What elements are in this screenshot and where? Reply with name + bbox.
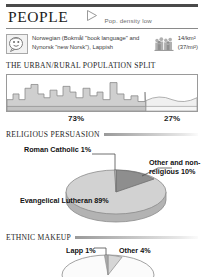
speech-face-icon — [6, 34, 28, 54]
fact-language: Norwegian (Bokmål "book language" and Ny… — [6, 34, 150, 54]
people-page: PEOPLE Pop. density low Norwegian (Bokmå… — [0, 4, 204, 264]
masthead: PEOPLE Pop. density low — [6, 7, 198, 29]
urban-rural-panel — [6, 74, 198, 112]
section-header-religion: RELIGIOUS PERSUASION — [6, 130, 198, 139]
fact-strip: Norwegian (Bokmål "book language" and Ny… — [6, 34, 198, 54]
label-other-nonreligious: Other and non-religious 10% — [149, 158, 205, 176]
urban-rural-legend: 73% 27% — [6, 114, 198, 123]
density-metric: 14/km² — [178, 34, 198, 43]
ethnic-pie-svg — [6, 243, 210, 277]
rural-percent: 27% — [146, 114, 198, 123]
section-rule — [104, 133, 198, 136]
section-header-urban-rural: THE URBAN/RURAL POPULATION SPLIT — [6, 61, 198, 70]
religion-pie-chart: Roman Catholic 1% Other and non-religiou… — [6, 140, 198, 226]
density-text: 14/km² (37/mi²) — [178, 34, 198, 51]
label-lapp: Lapp 1% — [66, 246, 96, 255]
masthead-subtitle: Pop. density low — [104, 17, 151, 24]
section-rule — [75, 236, 198, 239]
urban-percent: 73% — [6, 114, 146, 123]
crowd-people-icon — [154, 34, 174, 54]
page-title: PEOPLE — [6, 7, 68, 27]
section-header-ethnic: ETHNIC MAKEUP — [6, 233, 198, 242]
label-roman-catholic: Roman Catholic 1% — [24, 145, 91, 154]
fact-density: 14/km² (37/mi²) — [152, 34, 198, 54]
triangle-flag-icon — [86, 8, 98, 26]
label-evangelical-lutheran: Evangelical Lutheran 89% — [20, 196, 109, 205]
section-title: THE URBAN/RURAL POPULATION SPLIT — [6, 61, 156, 70]
urban-rural-illustration — [7, 75, 197, 111]
density-imperial: (37/mi²) — [178, 43, 198, 52]
section-title: RELIGIOUS PERSUASION — [6, 130, 100, 139]
ethnic-pie-chart: Lapp 1% Other 4% — [6, 243, 198, 277]
label-other-ethnic: Other 4% — [119, 246, 151, 255]
language-text: Norwegian (Bokmål "book language" and Ny… — [32, 34, 150, 51]
section-title: ETHNIC MAKEUP — [6, 233, 71, 242]
